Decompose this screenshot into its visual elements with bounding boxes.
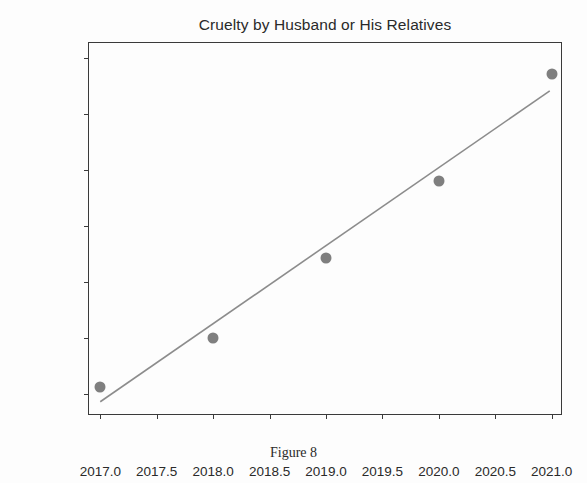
- x-axis-tick-mark: [100, 414, 101, 419]
- x-axis-tick-mark: [552, 414, 553, 419]
- x-axis-tick-label: 2017.5: [136, 464, 177, 479]
- x-axis-tick-mark: [326, 414, 327, 419]
- x-axis-tick-label: 2018.0: [192, 464, 233, 479]
- x-axis-tick-label: 2020.0: [418, 464, 459, 479]
- y-axis-tick-mark: [84, 226, 89, 227]
- x-axis-tick-mark: [382, 414, 383, 419]
- y-axis-tick-mark: [84, 114, 89, 115]
- y-axis-tick-mark: [84, 170, 89, 171]
- x-axis-tick-label: 2020.5: [475, 464, 516, 479]
- figure-caption: Figure 8: [0, 445, 587, 461]
- x-axis-tick-label: 2019.0: [305, 464, 346, 479]
- chart-title: Cruelty by Husband or His Relatives: [88, 16, 562, 34]
- x-axis-tick-label: 2018.5: [249, 464, 290, 479]
- x-axis-tick-label: 2021.0: [531, 464, 572, 479]
- y-axis-tick-mark: [84, 58, 89, 59]
- x-axis-tick-mark: [439, 414, 440, 419]
- data-point: [208, 332, 219, 343]
- x-axis-tick-mark: [495, 414, 496, 419]
- y-axis-tick-mark: [84, 394, 89, 395]
- x-axis-tick-mark: [157, 414, 158, 419]
- plot-area: 550006000065000700007500080000850002017.…: [88, 42, 562, 415]
- figure-container: Cruelty by Husband or His Relatives 5500…: [0, 0, 587, 483]
- data-point: [95, 381, 106, 392]
- x-axis-tick-label: 2017.0: [80, 464, 121, 479]
- x-axis-tick-label: 2019.5: [362, 464, 403, 479]
- x-axis-tick-mark: [213, 414, 214, 419]
- y-axis-tick-mark: [84, 338, 89, 339]
- trend-line: [89, 43, 561, 414]
- data-point: [321, 253, 332, 264]
- plot-inner: 550006000065000700007500080000850002017.…: [89, 43, 561, 414]
- y-axis-tick-mark: [84, 282, 89, 283]
- x-axis-tick-mark: [270, 414, 271, 419]
- data-point: [546, 69, 557, 80]
- data-point: [433, 175, 444, 186]
